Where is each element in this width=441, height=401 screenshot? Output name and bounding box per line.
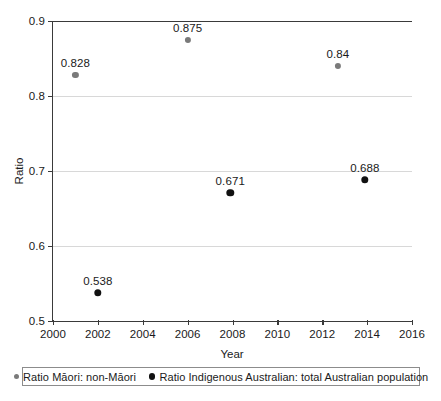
x-axis-tick-label: 2010 <box>264 328 290 340</box>
x-axis-tick-mark <box>98 320 99 325</box>
data-point-label: 0.875 <box>173 22 202 34</box>
legend-label: Ratio Māori: non-Māori <box>23 371 136 383</box>
x-axis-tick-mark <box>367 320 368 325</box>
data-point-label: 0.671 <box>216 175 245 187</box>
y-axis-tick-mark <box>48 21 53 22</box>
data-point[interactable] <box>335 63 341 69</box>
y-axis-title: Ratio <box>13 158 25 185</box>
x-axis-tick-label: 2002 <box>85 328 111 340</box>
x-axis-tick-label: 2000 <box>40 328 66 340</box>
data-point[interactable] <box>94 289 101 296</box>
data-point[interactable] <box>361 176 368 183</box>
x-axis-tick-mark <box>233 320 234 325</box>
y-axis-tick-label: 0.8 <box>29 90 45 102</box>
data-point[interactable] <box>227 189 234 196</box>
x-axis-tick-mark <box>412 320 413 325</box>
y-axis-tick-mark <box>48 96 53 97</box>
y-axis-tick-label: 0.7 <box>29 165 45 177</box>
scatter-chart-figure: 0.50.60.70.80.92000200220042006200820102… <box>0 0 441 401</box>
y-axis-tick-label: 0.9 <box>29 15 45 27</box>
gridline <box>53 246 412 247</box>
data-point-label: 0.538 <box>83 275 112 287</box>
x-axis-tick-label: 2016 <box>399 328 425 340</box>
x-axis-tick-label: 2008 <box>220 328 246 340</box>
data-point-label: 0.84 <box>327 48 350 60</box>
legend-entry[interactable]: Ratio Indigenous Australian: total Austr… <box>149 371 428 383</box>
x-axis-tick-mark <box>188 320 189 325</box>
legend-marker-icon <box>149 373 155 379</box>
x-axis-tick-mark <box>143 320 144 325</box>
x-axis-tick-mark <box>277 320 278 325</box>
y-axis-tick-label: 0.5 <box>29 315 45 327</box>
data-point[interactable] <box>72 72 78 78</box>
x-axis-tick-label: 2004 <box>130 328 156 340</box>
y-axis-tick-mark <box>48 246 53 247</box>
x-axis-tick-mark <box>53 320 54 325</box>
x-axis-tick-label: 2012 <box>309 328 335 340</box>
legend-label: Ratio Indigenous Australian: total Austr… <box>159 371 428 383</box>
data-point[interactable] <box>185 37 191 43</box>
x-axis-tick-label: 2014 <box>354 328 380 340</box>
y-axis-tick-label: 0.6 <box>29 240 45 252</box>
legend-entry[interactable]: Ratio Māori: non-Māori <box>14 371 136 383</box>
x-axis-tick-label: 2006 <box>175 328 201 340</box>
chart-legend: Ratio Māori: non-MāoriRatio Indigenous A… <box>22 367 420 386</box>
y-axis-tick-mark <box>48 171 53 172</box>
data-point-label: 0.828 <box>61 57 90 69</box>
legend-marker-icon <box>14 374 19 379</box>
plot-area: 0.50.60.70.80.92000200220042006200820102… <box>52 21 412 322</box>
plot-top-rule <box>53 21 412 22</box>
x-axis-tick-mark <box>322 320 323 325</box>
data-point-label: 0.688 <box>350 162 379 174</box>
x-axis-title: Year <box>52 348 412 360</box>
gridline <box>53 96 412 97</box>
